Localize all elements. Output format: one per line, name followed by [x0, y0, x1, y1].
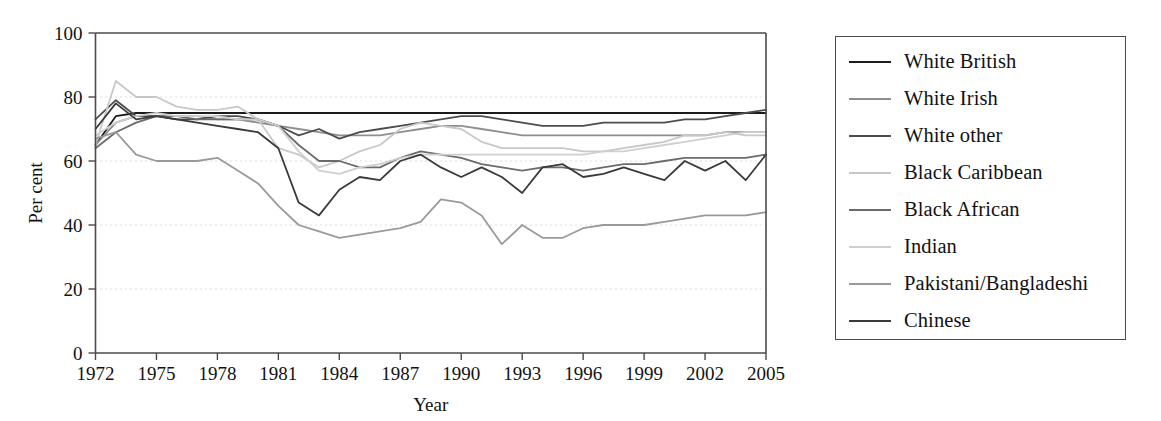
legend-item-label: Black Caribbean	[904, 161, 1043, 184]
legend-item[interactable]: White other	[836, 117, 1125, 154]
x-tick-label: 1984	[320, 363, 359, 384]
x-axis-tick-labels: 1972197519781981198419871990199319961999…	[77, 363, 786, 384]
x-tick-label: 2002	[686, 363, 724, 384]
x-tick-label: 1987	[381, 363, 419, 384]
legend-line-swatch	[849, 209, 891, 211]
legend-item-label: Indian	[904, 235, 957, 258]
legend-item-label: Black African	[904, 198, 1020, 221]
x-tick-label: 1999	[625, 363, 663, 384]
chart-svg: 020406080100 197219751978198119841987199…	[0, 0, 810, 421]
legend-item-label: White British	[904, 50, 1016, 73]
legend-line-swatch	[849, 135, 891, 137]
y-tick-label: 0	[73, 343, 83, 364]
legend-item[interactable]: Black Caribbean	[836, 154, 1125, 191]
series-line-pakistani-bangladeshi	[96, 132, 767, 244]
data-series-group	[96, 81, 767, 244]
legend-item[interactable]: Chinese	[836, 302, 1125, 339]
legend-item[interactable]: Indian	[836, 228, 1125, 265]
x-tick-label: 1975	[137, 363, 175, 384]
legend-item-label: Chinese	[904, 309, 971, 332]
y-tick-label: 100	[54, 23, 83, 44]
y-axis-ticks	[89, 33, 96, 353]
legend-line-swatch	[849, 172, 891, 174]
y-tick-label: 60	[64, 151, 83, 172]
legend-item-label: White Irish	[904, 87, 998, 110]
x-tick-label: 1996	[564, 363, 602, 384]
line-chart-figure: 020406080100 197219751978198119841987199…	[0, 0, 1161, 421]
legend-line-swatch	[849, 246, 891, 248]
legend-item-label: Pakistani/Bangladeshi	[904, 272, 1088, 295]
legend-item-label: White other	[904, 124, 1002, 147]
y-tick-label: 80	[64, 87, 83, 108]
x-tick-label: 1981	[259, 363, 297, 384]
legend-item[interactable]: Black African	[836, 191, 1125, 228]
legend-item[interactable]: White Irish	[836, 80, 1125, 117]
y-axis-title: Per cent	[25, 161, 46, 223]
x-tick-label: 1978	[198, 363, 236, 384]
legend-line-swatch	[849, 98, 891, 100]
legend-item[interactable]: Pakistani/Bangladeshi	[836, 265, 1125, 302]
y-tick-label: 20	[64, 279, 83, 300]
chart-plot-region: 020406080100 197219751978198119841987199…	[0, 0, 810, 421]
legend-item[interactable]: White British	[836, 43, 1125, 80]
x-axis-ticks	[96, 353, 767, 360]
x-tick-label: 1990	[442, 363, 480, 384]
y-axis-tick-labels: 020406080100	[54, 23, 83, 364]
legend-line-swatch	[849, 283, 891, 285]
gridlines-group	[96, 97, 767, 289]
series-line-white-british	[96, 113, 767, 145]
legend-line-swatch	[849, 61, 891, 63]
chart-legend: White BritishWhite IrishWhite otherBlack…	[835, 36, 1126, 340]
y-tick-label: 40	[64, 215, 83, 236]
x-tick-label: 1993	[503, 363, 541, 384]
x-axis-title: Year	[413, 394, 449, 415]
legend-line-swatch	[849, 320, 891, 322]
x-tick-label: 2005	[747, 363, 785, 384]
x-tick-label: 1972	[77, 363, 115, 384]
